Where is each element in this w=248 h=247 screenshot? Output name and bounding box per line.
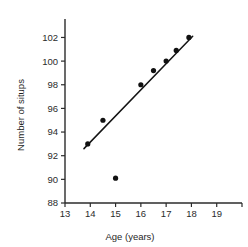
data-point <box>138 82 143 87</box>
situps-vs-age-scatter-chart: 889092949698100102 13141516171819 Age (y… <box>0 0 248 247</box>
y-tick-label: 90 <box>47 174 58 185</box>
data-point <box>186 35 191 40</box>
x-tick-label: 15 <box>110 208 121 219</box>
x-tick-label: 14 <box>85 208 96 219</box>
data-point <box>85 141 90 146</box>
x-tick-label: 16 <box>136 208 147 219</box>
x-tick-label: 18 <box>186 208 197 219</box>
y-tick-label: 92 <box>47 150 58 161</box>
y-tick-label: 94 <box>47 126 58 137</box>
data-point <box>164 59 169 64</box>
x-tick-label: 17 <box>161 208 172 219</box>
x-tick-label: 13 <box>60 208 71 219</box>
y-tick-label: 102 <box>42 32 58 43</box>
data-point <box>100 118 105 123</box>
y-tick-label: 96 <box>47 103 58 114</box>
x-tick-label: 19 <box>211 208 222 219</box>
data-point <box>151 68 156 73</box>
y-tick-label: 88 <box>47 197 58 208</box>
x-axis-title: Age (years) <box>105 231 154 242</box>
y-tick-label: 98 <box>47 79 58 90</box>
data-point <box>113 176 118 181</box>
y-tick-label: 100 <box>42 56 58 67</box>
data-point <box>174 48 179 53</box>
y-axis-title: Number of situps <box>15 79 26 151</box>
chart-canvas: 889092949698100102 13141516171819 Age (y… <box>0 0 248 247</box>
